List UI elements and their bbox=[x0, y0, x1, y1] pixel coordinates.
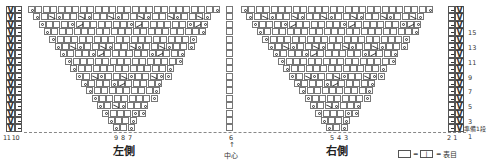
chart-cell bbox=[278, 6, 285, 13]
chart-cell bbox=[153, 87, 160, 94]
edge-slip-stitch: V bbox=[455, 13, 464, 20]
chart-cell bbox=[374, 58, 381, 65]
chart-cell bbox=[67, 50, 74, 57]
chart-cell bbox=[389, 58, 396, 65]
chart-cell bbox=[62, 43, 69, 50]
chart-cell bbox=[348, 73, 355, 80]
chart-cell bbox=[368, 80, 375, 87]
chart-cell bbox=[252, 21, 259, 28]
chart-cell bbox=[66, 28, 73, 35]
chart-cell bbox=[46, 21, 53, 28]
chart-cell bbox=[190, 36, 197, 43]
chart-cell bbox=[347, 50, 354, 57]
chart-cell bbox=[60, 50, 67, 57]
chart-cell bbox=[155, 80, 162, 87]
chart-cell bbox=[321, 36, 328, 43]
center-stitch bbox=[226, 58, 233, 65]
chart-cell bbox=[144, 13, 151, 20]
chart-cell bbox=[257, 28, 264, 35]
chart-cell bbox=[182, 36, 189, 43]
chart-cell bbox=[168, 36, 175, 43]
chart-cell bbox=[86, 36, 93, 43]
edge-purl-stitch bbox=[448, 65, 455, 72]
chart-cell bbox=[84, 43, 91, 50]
chart-cell bbox=[336, 36, 343, 43]
chart-cell bbox=[345, 58, 352, 65]
center-stitch bbox=[226, 43, 233, 50]
edge-slip-stitch: V bbox=[455, 6, 464, 13]
chart-cell bbox=[77, 43, 84, 50]
chart-cell bbox=[353, 80, 360, 87]
chart-cell bbox=[174, 13, 181, 20]
chart-cell bbox=[113, 73, 120, 80]
chart-cell bbox=[296, 73, 303, 80]
chart-cell bbox=[48, 13, 55, 20]
chart-cell bbox=[335, 65, 342, 72]
chart-cell bbox=[175, 36, 182, 43]
chart-cell bbox=[343, 13, 350, 20]
chart-cell bbox=[412, 28, 419, 35]
legend-knit-cell: | bbox=[420, 150, 433, 158]
chart-cell bbox=[349, 95, 356, 102]
chart-cell bbox=[181, 13, 188, 20]
chart-cell bbox=[95, 6, 102, 13]
chart-cell bbox=[146, 87, 153, 94]
chart-cell bbox=[87, 58, 94, 65]
chart-cell bbox=[113, 124, 120, 131]
chart-cell bbox=[125, 80, 132, 87]
chart-cell bbox=[125, 28, 132, 35]
chart-cell bbox=[384, 50, 391, 57]
center-stitch bbox=[226, 110, 233, 117]
chart-cell bbox=[379, 43, 386, 50]
chart-cell bbox=[93, 13, 100, 20]
chart-cell bbox=[343, 117, 350, 124]
chart-cell bbox=[407, 21, 414, 28]
chart-cell bbox=[213, 6, 220, 13]
chart-cell bbox=[116, 87, 123, 94]
chart-cell bbox=[330, 110, 337, 117]
chart-cell bbox=[148, 80, 155, 87]
chart-cell bbox=[105, 73, 112, 80]
chart-cell bbox=[325, 102, 332, 109]
chart-cell bbox=[331, 28, 338, 35]
chart-cell bbox=[331, 80, 338, 87]
center-stitch bbox=[226, 21, 233, 28]
chart-cell bbox=[354, 102, 361, 109]
chart-cell bbox=[115, 65, 122, 72]
edge-slip-stitch: V bbox=[455, 28, 464, 35]
chart-cell bbox=[111, 28, 118, 35]
chart-cell bbox=[256, 6, 263, 13]
chart-cell bbox=[57, 36, 64, 43]
chart-cell bbox=[154, 6, 161, 13]
chart-cell bbox=[191, 6, 198, 13]
chart-cell bbox=[355, 21, 362, 28]
chart-cell bbox=[316, 28, 323, 35]
chart-cell bbox=[305, 43, 312, 50]
edge-purl-stitch bbox=[448, 28, 455, 35]
chart-cell bbox=[409, 13, 416, 20]
edge-slip-stitch: V bbox=[455, 73, 464, 80]
chart-cell bbox=[129, 43, 136, 50]
chart-cell bbox=[102, 6, 109, 13]
chart-cell bbox=[274, 21, 281, 28]
chart-cell bbox=[352, 110, 359, 117]
chart-cell bbox=[139, 58, 146, 65]
edge-purl-stitch bbox=[448, 102, 455, 109]
chart-cell bbox=[315, 58, 322, 65]
knit-symbol-icon: | bbox=[425, 150, 427, 157]
chart-cell bbox=[269, 13, 276, 20]
chart-cell bbox=[369, 50, 376, 57]
chart-cell bbox=[120, 124, 127, 131]
edge-purl-stitch bbox=[15, 65, 22, 72]
chart-cell bbox=[380, 65, 387, 72]
right-side-label: 右側 bbox=[326, 142, 348, 158]
edge-slip-stitch: V bbox=[6, 28, 15, 35]
chart-cell bbox=[266, 21, 273, 28]
chart-cell bbox=[246, 13, 253, 20]
chart-cell bbox=[136, 95, 143, 102]
chart-cell bbox=[143, 95, 150, 102]
chart-cell bbox=[120, 21, 127, 28]
chart-cell bbox=[76, 21, 83, 28]
chart-cell bbox=[360, 58, 367, 65]
chart-cell bbox=[366, 36, 373, 43]
